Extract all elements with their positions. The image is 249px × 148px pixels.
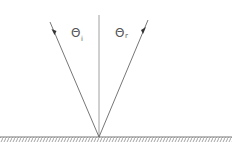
diagram-canvas: Θ i Θ r (0, 0, 249, 148)
theta-r-subscript: r (125, 32, 128, 40)
theta-r-label: Θ (115, 26, 124, 40)
theta-i-label: Θ (71, 26, 80, 40)
incident-arrow-icon (52, 29, 57, 35)
reflected-arrow-icon (141, 27, 146, 34)
surface-hatch (0, 137, 232, 142)
reflection-diagram: Θ i Θ r (0, 0, 249, 148)
theta-i-subscript: i (81, 35, 83, 43)
